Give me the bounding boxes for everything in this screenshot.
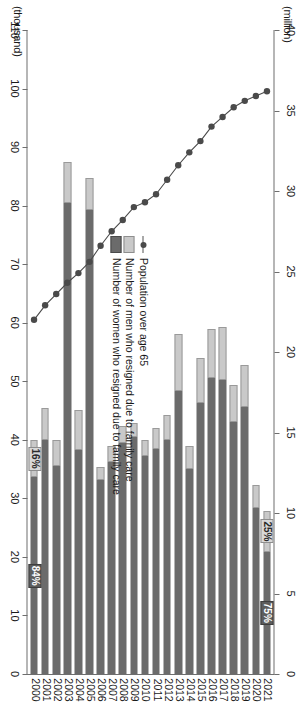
population-data-point	[163, 177, 169, 183]
legend-label-men: Number of men who resigned due to family…	[122, 258, 136, 482]
percentage-annotation: 75%	[260, 601, 273, 625]
population-data-point	[208, 123, 214, 129]
population-data-point	[241, 98, 247, 104]
population-data-point	[41, 302, 47, 308]
legend-item-population: Population over age 65	[136, 236, 150, 495]
legend-item-women: Number of women who resigned due to fami…	[109, 236, 123, 495]
line-marker-icon	[137, 236, 148, 253]
population-data-point	[30, 317, 36, 323]
legend-label-women: Number of women who resigned due to fami…	[109, 258, 123, 495]
percentage-annotation: 25%	[260, 519, 273, 543]
percentage-annotation: 16%	[28, 447, 41, 471]
men-swatch-icon	[123, 236, 134, 253]
rotated-chart-wrapper: (million) (thousand) 4035302520151050 11…	[0, 0, 299, 710]
chart-canvas: (million) (thousand) 4035302520151050 11…	[0, 0, 299, 710]
population-data-point	[175, 162, 181, 168]
population-data-point	[252, 93, 258, 99]
population-line-series	[0, 0, 299, 710]
chart-legend: Population over age 65 Number of men who…	[109, 236, 150, 495]
population-data-point	[108, 228, 114, 234]
legend-label-population: Population over age 65	[136, 258, 150, 366]
women-swatch-icon	[110, 236, 121, 253]
population-data-point	[97, 243, 103, 249]
population-data-point	[186, 149, 192, 155]
population-data-point	[263, 88, 269, 94]
legend-item-men: Number of men who resigned due to family…	[122, 236, 136, 495]
plot-area: (million) (thousand) 4035302520151050 11…	[0, 0, 299, 710]
population-data-point	[130, 204, 136, 210]
percentage-annotation: 84%	[28, 564, 41, 588]
population-data-point	[141, 199, 147, 205]
